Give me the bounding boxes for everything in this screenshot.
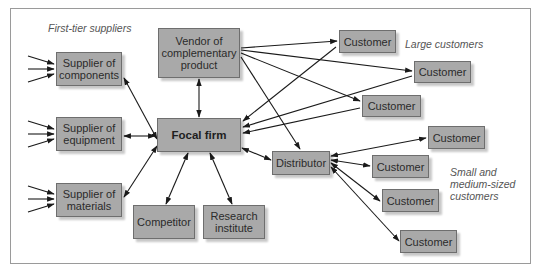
node-customer-large-1: Customer	[339, 30, 396, 53]
node-customer-small-3: Customer	[382, 189, 439, 212]
node-research-institute: Research institute	[203, 205, 265, 239]
node-competitor: Competitor	[133, 205, 195, 239]
node-customer-small-2: Customer	[372, 155, 429, 178]
small-customers-line-2: medium-sized	[450, 178, 515, 190]
node-customer-large-2: Customer	[414, 61, 471, 83]
node-focal-firm: Focal firm	[157, 118, 241, 152]
node-customer-large-3: Customer	[362, 95, 421, 117]
small-customers-label: Small and medium-sized customers	[450, 166, 515, 202]
node-supplier-components: Supplier of components	[56, 52, 122, 86]
node-vendor-complementary: Vendor of complementary product	[158, 28, 240, 78]
node-distributor: Distributor	[272, 151, 330, 175]
node-customer-small-1: Customer	[428, 126, 485, 149]
large-customers-label: Large customers	[405, 38, 483, 50]
node-customer-small-4: Customer	[400, 230, 457, 253]
first-tier-suppliers-label: First-tier suppliers	[48, 22, 131, 34]
node-supplier-equipment: Supplier of equipment	[56, 117, 122, 151]
small-customers-line-3: customers	[450, 190, 515, 202]
small-customers-line-1: Small and	[450, 166, 515, 178]
node-supplier-materials: Supplier of materials	[56, 183, 122, 217]
